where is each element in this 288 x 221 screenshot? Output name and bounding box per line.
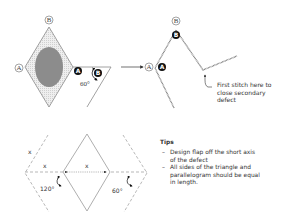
svg-text:B: B bbox=[47, 16, 52, 24]
x-label-upper-left: x bbox=[28, 148, 32, 155]
tip-item: All sides of the triangle and parallelog… bbox=[160, 164, 288, 186]
tip-2-line-3: in length. bbox=[170, 179, 288, 186]
tips-section: Tips Design flap off the short axis of t… bbox=[160, 139, 288, 186]
point-a-filled-marker-closed: A bbox=[158, 63, 166, 71]
point-a-open-marker-closed: A bbox=[145, 63, 153, 71]
tip-2-line-2: parallelogram should be equal bbox=[170, 172, 288, 179]
svg-text:A: A bbox=[160, 63, 165, 70]
svg-text:B: B bbox=[96, 69, 101, 76]
defect-ellipse bbox=[35, 47, 63, 87]
annotation-line-3: defect bbox=[217, 96, 287, 104]
diagram-canvas: A B A B 60° A A B bbox=[0, 0, 288, 221]
x-label-middle-left: x bbox=[43, 162, 47, 169]
right-dashed-chevron bbox=[123, 135, 147, 212]
svg-text:A: A bbox=[76, 67, 81, 74]
point-a-filled-marker: A bbox=[74, 67, 82, 75]
tips-list: Design flap off the short axis of the de… bbox=[160, 149, 288, 186]
angle-label-60-bottom: 60° bbox=[112, 187, 123, 194]
x-label-center: x bbox=[85, 162, 89, 169]
tip-1-line-1: Design flap off the short axis bbox=[170, 149, 288, 156]
panel-geometry: x x x 120° 60° bbox=[25, 134, 147, 212]
angle-label-120: 120° bbox=[40, 185, 54, 192]
svg-text:B: B bbox=[174, 17, 179, 25]
point-b-open-marker-closed: B bbox=[172, 17, 180, 25]
svg-text:B: B bbox=[174, 31, 179, 38]
first-stitch-annotation: First stitch here to close secondary def… bbox=[217, 81, 287, 104]
left-dashed-chevron bbox=[25, 135, 49, 212]
angle-arrow-60-icon bbox=[127, 178, 132, 186]
point-b-filled-marker-closed: B bbox=[172, 31, 180, 39]
angle-label-60: 60° bbox=[80, 80, 90, 88]
point-b-filled-marker: B bbox=[94, 69, 102, 77]
svg-text:A: A bbox=[16, 64, 21, 72]
center-rhombus bbox=[63, 134, 110, 211]
first-stitch-leader-arrow bbox=[205, 75, 212, 87]
tip-1-line-2: of the defect bbox=[170, 157, 288, 164]
tip-2-line-1: All sides of the triangle and bbox=[170, 164, 288, 171]
panel-defect-design: A B A B 60° bbox=[15, 16, 111, 107]
annotation-line-2: close secondary bbox=[217, 89, 287, 97]
point-b-open-marker: B bbox=[45, 16, 53, 24]
svg-text:A: A bbox=[146, 63, 151, 71]
tip-item: Design flap off the short axis of the de… bbox=[160, 149, 288, 164]
annotation-line-1: First stitch here to bbox=[217, 81, 287, 89]
angle-arrow-120-icon bbox=[57, 178, 61, 186]
point-a-open-marker: A bbox=[15, 64, 23, 72]
tips-title: Tips bbox=[160, 139, 288, 146]
